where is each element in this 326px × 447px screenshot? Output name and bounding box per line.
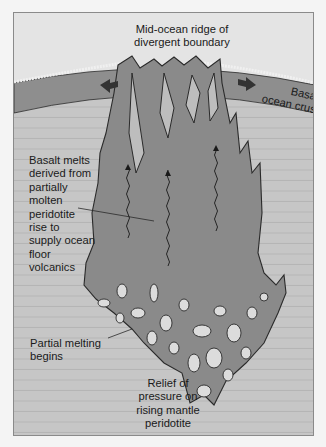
label-ridge: Mid-ocean ridge of divergent boundary bbox=[122, 23, 242, 50]
label-partial-melting: Partial melting begins bbox=[30, 337, 101, 364]
label-basalt-melts: Basalt melts derived from partially molt… bbox=[29, 154, 95, 275]
diagram-frame: Mid-ocean ridge of divergent boundary Ba… bbox=[13, 12, 314, 436]
label-relief-of-pressure: Relief of pressure on rising mantle peri… bbox=[118, 377, 218, 431]
